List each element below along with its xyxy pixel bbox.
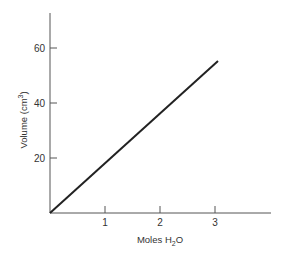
- chart: 60 40 20 1 2 3 Moles H2O Volume (cm3): [0, 0, 281, 253]
- x-axis-title: Moles H2O: [137, 234, 183, 247]
- data-line: [50, 61, 218, 213]
- y-tick-label: 20: [34, 153, 46, 164]
- x-tick-label: 2: [157, 217, 163, 228]
- y-axis-title: Volume (cm3): [17, 91, 29, 148]
- y-tick-label: 40: [34, 98, 46, 109]
- x-tick-label: 3: [212, 217, 218, 228]
- y-tick-label: 60: [34, 43, 46, 54]
- x-tick-label: 1: [102, 217, 108, 228]
